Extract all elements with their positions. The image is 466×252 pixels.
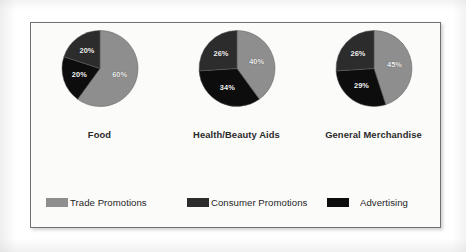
pie-slice-value-label: 45%: [387, 61, 402, 68]
legend-item[interactable]: Advertising: [327, 195, 408, 209]
legend-swatch-advertising: [327, 198, 349, 207]
pie-chart-2: 40%34%26%Health/Beauty Aids: [168, 29, 305, 179]
pie-chart-1: 60%20%20%Food: [31, 29, 168, 179]
pie-graphic: 45%29%26%: [335, 30, 412, 107]
chart-panel: 60%20%20%Food40%34%26%Health/Beauty Aids…: [30, 22, 441, 228]
legend-item[interactable]: Trade Promotions: [46, 195, 147, 209]
legend-swatch-consumer-promotions: [187, 198, 209, 207]
pie-graphic: 60%20%20%: [61, 30, 138, 107]
pie-svg: [198, 30, 275, 107]
pie-svg: [61, 30, 138, 107]
pie-chart-figure: 60%20%20%Food40%34%26%Health/Beauty Aids…: [0, 0, 466, 252]
pie-category-label: Food: [31, 129, 168, 140]
pie-slice-value-label: 40%: [249, 58, 264, 65]
pie-category-label: Health/Beauty Aids: [168, 129, 305, 140]
legend-item[interactable]: Consumer Promotions: [187, 195, 307, 209]
pie-graphic: 40%34%26%: [198, 30, 275, 107]
pie-slice-value-label: 34%: [220, 84, 235, 91]
pie-slice-value-label: 20%: [79, 48, 94, 55]
pie-slice-value-label: 20%: [72, 71, 87, 78]
chart-legend: Trade PromotionsConsumer PromotionsAdver…: [31, 195, 440, 217]
pie-slice-value-label: 26%: [213, 50, 228, 57]
pie-slice-value-label: 26%: [350, 50, 365, 57]
pie-chart-3: 45%29%26%General Merchandise: [305, 29, 442, 179]
legend-label: Consumer Promotions: [211, 198, 307, 208]
legend-swatch-trade-promotions: [46, 198, 68, 207]
pie-charts-row: 60%20%20%Food40%34%26%Health/Beauty Aids…: [31, 29, 440, 179]
legend-label: Advertising: [360, 198, 408, 208]
pie-category-label: General Merchandise: [305, 129, 442, 140]
pie-slice-value-label: 29%: [354, 82, 369, 89]
pie-slice-value-label: 60%: [112, 71, 127, 78]
legend-label: Trade Promotions: [70, 198, 147, 208]
